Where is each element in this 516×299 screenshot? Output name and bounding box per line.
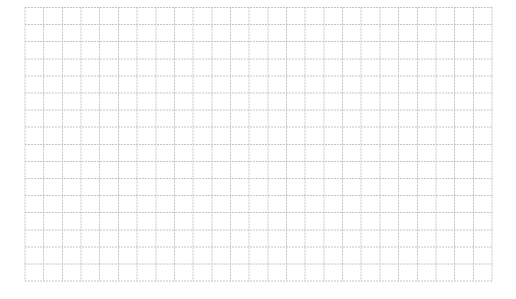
grid-lines [25,8,492,282]
grid-paper [0,0,516,299]
